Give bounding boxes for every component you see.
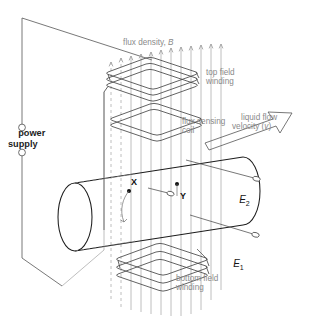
liquid-flow-velocity-label: liquid flow velocity (v) — [232, 104, 277, 141]
top-field-winding-label: top field winding — [206, 68, 235, 86]
power-supply-lead-to-bottom-winding — [22, 258, 62, 286]
point-x-label: X — [131, 177, 137, 187]
flux-density-symbol: B — [168, 38, 173, 47]
point-x-leader — [122, 191, 129, 222]
bottom-field-winding-label: bottom field winding — [176, 274, 218, 292]
electrode-e2-label: E2 — [228, 183, 250, 219]
flux-density-label: flux density, B — [114, 29, 173, 57]
electrode-e1-label: E1 — [222, 247, 244, 283]
power-supply-label: power supply — [8, 118, 45, 159]
flux-sensing-coil-label: flux sensing coil — [182, 117, 225, 135]
diagram-canvas: .ln { fill:none; stroke:#555555; stroke-… — [0, 0, 320, 328]
measurement-points — [120, 182, 179, 222]
point-y-label: Y — [180, 191, 186, 201]
structure-plane — [62, 92, 104, 286]
top-field-winding — [104, 57, 199, 230]
